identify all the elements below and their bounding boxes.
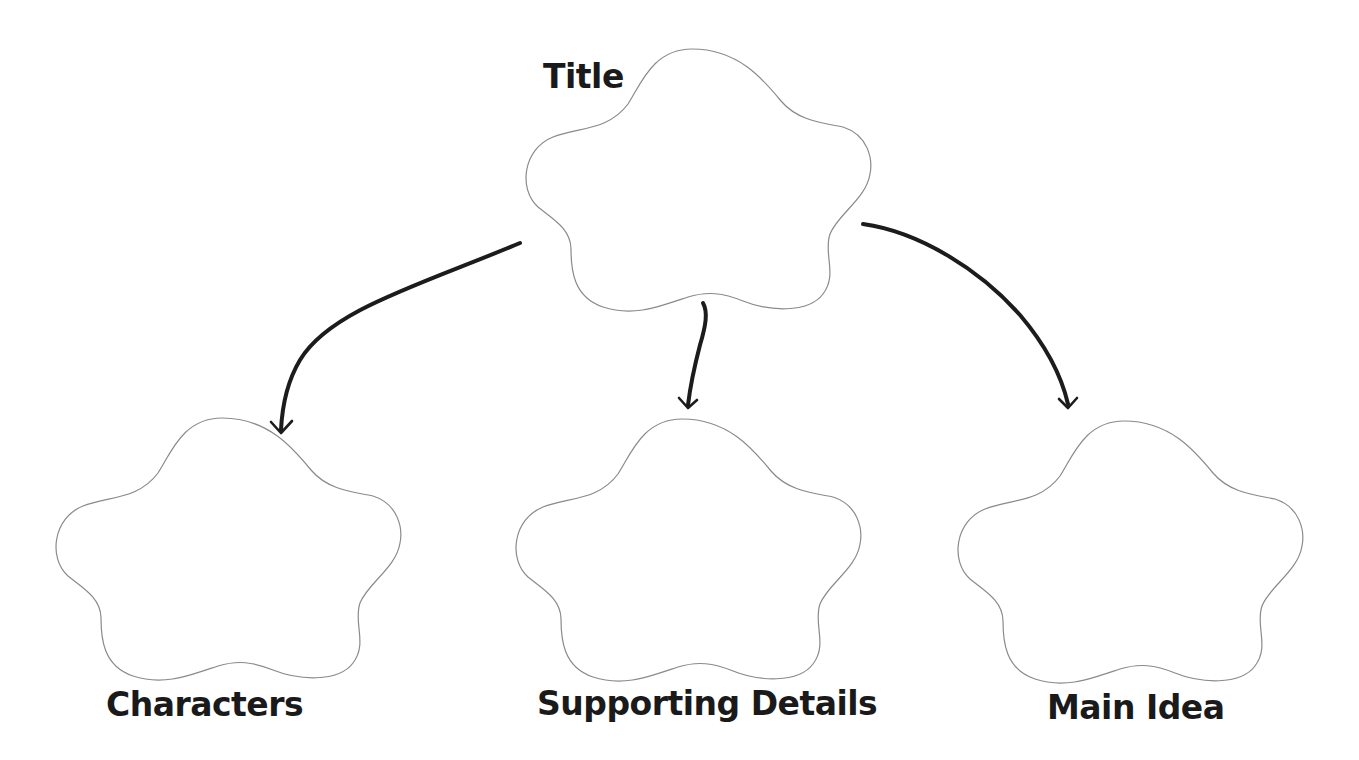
label-main-idea: Main Idea <box>1047 691 1224 724</box>
flower-characters[interactable] <box>56 418 401 680</box>
arrow-title-to-supporting-details <box>679 303 706 408</box>
label-characters: Characters <box>106 688 303 721</box>
label-supporting-details: Supporting Details <box>537 687 877 720</box>
flower-main-idea[interactable] <box>958 421 1303 683</box>
graphic-organizer-canvas <box>0 0 1359 760</box>
flower-supporting-details[interactable] <box>516 419 861 681</box>
label-title: Title <box>543 60 624 93</box>
arrow-title-to-main-idea <box>863 224 1077 408</box>
arrow-title-to-characters <box>271 243 520 433</box>
